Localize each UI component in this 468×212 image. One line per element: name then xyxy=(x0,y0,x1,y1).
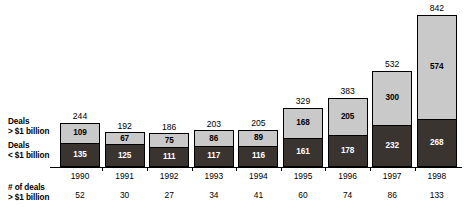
x-axis-tick xyxy=(102,167,103,171)
x-axis-tick xyxy=(192,167,193,171)
bar-segment-below-1b-value: 232 xyxy=(386,142,399,150)
bar-segment-below-1b-value: 117 xyxy=(207,152,220,160)
bar-segment-above-1b-value: 86 xyxy=(209,135,218,143)
bar-stack: 205178 xyxy=(328,98,368,167)
bar-stack: 67125 xyxy=(105,132,145,167)
x-axis-year-label: 1991 xyxy=(103,172,147,180)
bar-segment-above-1b[interactable]: 67 xyxy=(105,132,145,144)
x-axis-year-label: 1990 xyxy=(58,172,102,180)
bar-segment-below-1b[interactable]: 111 xyxy=(149,147,189,167)
bar-segment-above-1b[interactable]: 75 xyxy=(149,133,189,147)
bar-segment-below-1b-value: 268 xyxy=(430,139,443,147)
x-axis-year-label: 1998 xyxy=(415,172,459,180)
bar-total-label: 329 xyxy=(283,97,323,106)
stacked-bar-chart: Deals > $1 billion Deals < $1 billion # … xyxy=(0,0,468,212)
bar-total-label: 383 xyxy=(328,87,368,96)
bar-segment-below-1b-value: 111 xyxy=(163,153,175,161)
bar-total-label: 532 xyxy=(372,60,412,69)
bar-stack: 574268 xyxy=(417,15,457,167)
bar-segment-below-1b-value: 135 xyxy=(73,151,86,159)
bar-column[interactable]: 20589116 xyxy=(238,4,278,167)
bar-segment-below-1b-value: 116 xyxy=(252,152,265,160)
deal-count-value: 86 xyxy=(370,191,414,199)
x-axis-year-label: 1996 xyxy=(326,172,370,180)
bar-stack: 168161 xyxy=(283,108,323,167)
bar-segment-above-1b-value: 574 xyxy=(430,63,443,71)
bar-stack: 300232 xyxy=(372,71,412,167)
bar-segment-above-1b[interactable]: 89 xyxy=(238,130,278,146)
deal-count-label-line1: # of deals xyxy=(8,183,49,193)
bar-column[interactable]: 383205178 xyxy=(328,4,368,167)
deal-count-value: 30 xyxy=(103,191,147,199)
bar-segment-above-1b-value: 109 xyxy=(73,129,86,137)
bar-segment-below-1b[interactable]: 268 xyxy=(417,119,457,167)
deal-count-row-label: # of deals> $1 billion xyxy=(8,183,49,203)
bar-segment-below-1b-value: 125 xyxy=(118,152,131,160)
bar-total-label: 842 xyxy=(417,4,457,13)
bar-column[interactable]: 842574268 xyxy=(417,4,457,167)
bar-total-label: 244 xyxy=(60,112,100,121)
bar-segment-above-1b-value: 67 xyxy=(120,135,129,143)
x-axis-tick xyxy=(236,167,237,171)
x-axis-year-label: 1994 xyxy=(236,172,280,180)
legend-above-line1: Deals xyxy=(8,117,49,127)
bar-total-label: 186 xyxy=(149,123,189,132)
bar-segment-below-1b[interactable]: 232 xyxy=(372,125,412,167)
bar-column[interactable]: 18675111 xyxy=(149,4,189,167)
bar-column[interactable]: 329168161 xyxy=(283,4,323,167)
bar-stack: 86117 xyxy=(194,130,234,167)
x-axis-line xyxy=(50,167,462,168)
bar-segment-below-1b[interactable]: 116 xyxy=(238,146,278,167)
bar-segment-above-1b[interactable]: 300 xyxy=(372,71,412,125)
x-axis-year-label: 1995 xyxy=(281,172,325,180)
bar-segment-above-1b[interactable]: 574 xyxy=(417,15,457,119)
bar-segment-below-1b[interactable]: 161 xyxy=(283,138,323,167)
bar-total-label: 203 xyxy=(194,120,234,129)
x-axis-year-label: 1997 xyxy=(370,172,414,180)
bar-segment-above-1b-value: 89 xyxy=(254,134,263,142)
bar-segment-above-1b[interactable]: 109 xyxy=(60,123,100,143)
bar-stack: 109135 xyxy=(60,123,100,167)
bar-segment-below-1b[interactable]: 135 xyxy=(60,143,100,167)
deal-count-value: 27 xyxy=(147,191,191,199)
bar-segment-above-1b-value: 300 xyxy=(386,94,399,102)
legend-deals-below-1b: Deals < $1 billion xyxy=(8,141,49,161)
x-axis-tick xyxy=(281,167,282,171)
bar-segment-above-1b-value: 205 xyxy=(341,113,354,121)
bar-segment-below-1b[interactable]: 178 xyxy=(328,135,368,167)
bar-column[interactable]: 20386117 xyxy=(194,4,234,167)
deal-count-value: 74 xyxy=(326,191,370,199)
bar-column[interactable]: 19267125 xyxy=(105,4,145,167)
x-axis-tick xyxy=(147,167,148,171)
bar-total-label: 205 xyxy=(238,119,278,128)
bar-segment-above-1b-value: 168 xyxy=(296,119,309,127)
bar-column[interactable]: 244109135 xyxy=(60,4,100,167)
bar-segment-above-1b[interactable]: 205 xyxy=(328,98,368,135)
x-axis-tick xyxy=(325,167,326,171)
bar-segment-below-1b[interactable]: 125 xyxy=(105,144,145,167)
bar-segment-above-1b[interactable]: 86 xyxy=(194,130,234,146)
x-axis-tick xyxy=(370,167,371,171)
deal-count-value: 52 xyxy=(58,191,102,199)
bar-stack: 75111 xyxy=(149,133,189,167)
bar-segment-below-1b[interactable]: 117 xyxy=(194,146,234,167)
deal-count-value: 34 xyxy=(192,191,236,199)
bar-segment-below-1b-value: 161 xyxy=(296,148,309,156)
deal-count-value: 133 xyxy=(415,191,459,199)
bar-column[interactable]: 532300232 xyxy=(372,4,412,167)
legend-below-line1: Deals xyxy=(8,141,49,151)
deal-count-value: 60 xyxy=(281,191,325,199)
bar-segment-below-1b-value: 178 xyxy=(341,147,354,155)
bar-segment-above-1b-value: 75 xyxy=(165,137,174,145)
bar-total-label: 192 xyxy=(105,122,145,131)
legend-above-line2: > $1 billion xyxy=(8,127,49,137)
deal-count-label-line2: > $1 billion xyxy=(8,193,49,203)
legend-deals-above-1b: Deals > $1 billion xyxy=(8,117,49,137)
deal-count-value: 41 xyxy=(236,191,280,199)
plot-area: 2441091351926712518675111203861172058911… xyxy=(56,4,460,167)
bar-stack: 89116 xyxy=(238,130,278,167)
x-axis-tick xyxy=(415,167,416,171)
x-axis-year-label: 1993 xyxy=(192,172,236,180)
legend-below-line2: < $1 billion xyxy=(8,151,49,161)
bar-segment-above-1b[interactable]: 168 xyxy=(283,108,323,138)
